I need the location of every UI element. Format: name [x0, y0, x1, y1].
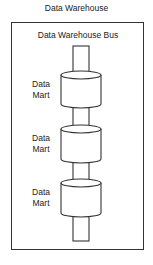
data-mart-label-1: Data Mart — [21, 79, 61, 101]
data-mart-cylinder-1 — [61, 71, 101, 108]
mart-label-line: Mart — [21, 90, 61, 101]
mart-label-line: Data — [21, 133, 61, 144]
mart-label-line: Mart — [21, 144, 61, 155]
mart-label-line: Data — [21, 187, 61, 198]
mart-label-line: Mart — [21, 198, 61, 209]
mart-label-line: Data — [21, 79, 61, 90]
data-mart-label-2: Data Mart — [21, 133, 61, 155]
data-mart-label-3: Data Mart — [21, 187, 61, 209]
data-mart-cylinder-2 — [61, 125, 101, 163]
data-mart-cylinder-3 — [61, 179, 101, 217]
